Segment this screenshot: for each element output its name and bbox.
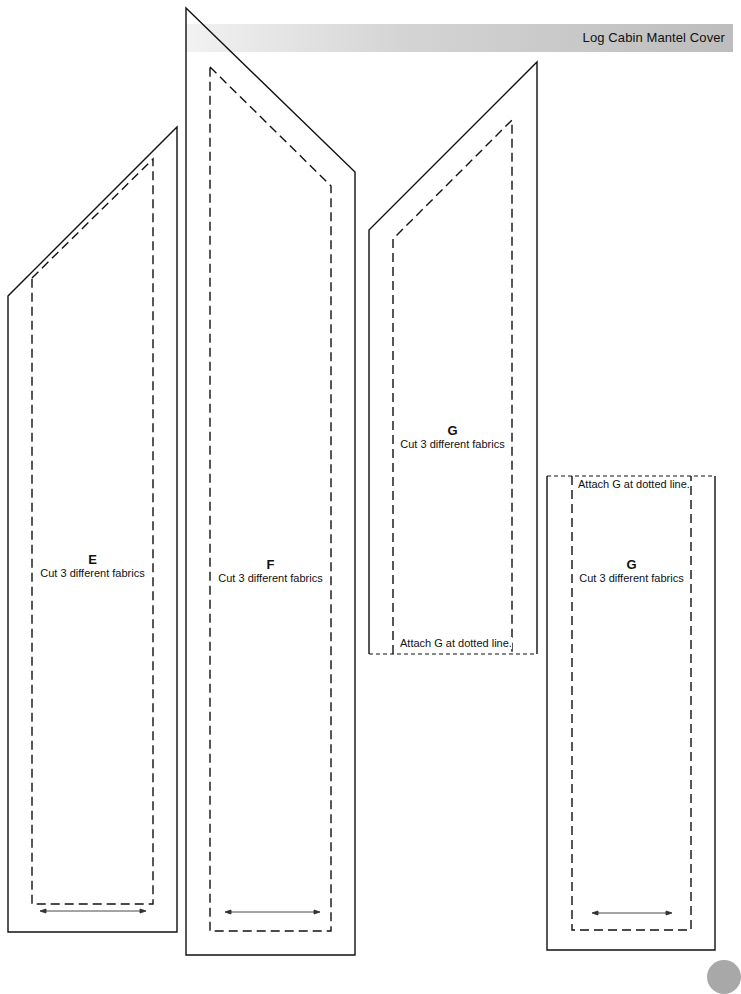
piece-g-bottom-instruction: Cut 3 different fabrics (572, 572, 691, 585)
piece-e-label: E Cut 3 different fabrics (32, 553, 153, 580)
piece-g-bottom-label: G Cut 3 different fabrics (572, 558, 691, 585)
piece-f-cut-line (186, 8, 355, 955)
piece-g-bottom-seam-line (572, 476, 691, 930)
page-marker (707, 960, 741, 994)
piece-g-top-label: G Cut 3 different fabrics (393, 424, 512, 451)
piece-f-letter: F (210, 558, 331, 572)
piece-e-cut-line (8, 127, 177, 932)
piece-g-top-seam-line (393, 120, 512, 654)
piece-e-instruction: Cut 3 different fabrics (32, 567, 153, 580)
piece-g-bottom-letter: G (572, 558, 691, 572)
piece-f-seam-line (210, 67, 331, 931)
piece-e-letter: E (32, 553, 153, 567)
piece-f-label: F Cut 3 different fabrics (210, 558, 331, 585)
piece-g-bottom-attach-note: Attach G at dotted line. (578, 478, 690, 490)
piece-g-top-attach-note: Attach G at dotted line. (400, 637, 512, 649)
piece-f-instruction: Cut 3 different fabrics (210, 572, 331, 585)
piece-e-seam-line (32, 159, 153, 904)
piece-g-top-letter: G (393, 424, 512, 438)
piece-g-top-instruction: Cut 3 different fabrics (393, 438, 512, 451)
